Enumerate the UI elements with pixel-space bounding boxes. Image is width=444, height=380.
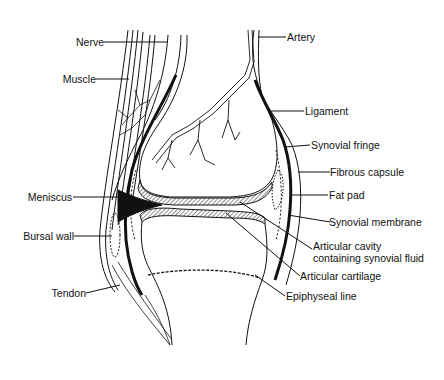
fibrous-capsule-right — [255, 80, 291, 280]
label-epiphyseal-line: Epiphyseal line — [286, 290, 357, 302]
label-tendon: Tendon — [30, 287, 86, 299]
tendon — [112, 262, 172, 345]
femur-outline — [140, 30, 278, 197]
label-fibrous-capsule: Fibrous capsule — [330, 166, 404, 178]
leader-lines — [73, 37, 330, 296]
epiphyseal-line — [148, 270, 260, 278]
femoral-articular-cartilage — [138, 180, 272, 205]
label-synovial-membrane: Synovial membrane — [329, 216, 422, 228]
label-meniscus: Meniscus — [10, 191, 72, 203]
tibial-articular-cartilage — [140, 208, 265, 224]
label-ligament: Ligament — [305, 105, 348, 117]
label-articular-cavity-1: Articular cavity — [313, 240, 381, 252]
label-fat-pad: Fat pad — [329, 189, 365, 201]
label-synovial-fringe: Synovial fringe — [311, 139, 380, 151]
label-muscle: Muscle — [40, 73, 96, 85]
tibia-outline — [141, 222, 172, 345]
label-articular-cavity-2: containing synovial fluid — [313, 252, 424, 264]
label-bursal-wall: Bursal wall — [0, 230, 74, 242]
bursa — [110, 213, 120, 257]
knee-joint-diagram — [0, 0, 444, 380]
label-artery: Artery — [287, 31, 315, 43]
label-nerve: Nerve — [60, 36, 104, 48]
label-articular-cartilage: Articular cartilage — [300, 270, 381, 282]
ligament-outer — [258, 30, 300, 285]
tibia-outline-right — [246, 224, 267, 345]
